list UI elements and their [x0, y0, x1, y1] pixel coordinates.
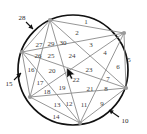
region-label-6: 6: [116, 64, 120, 71]
region-label-25: 25: [48, 53, 55, 60]
region-label-26: 26: [35, 53, 42, 60]
region-label-4: 4: [103, 50, 107, 57]
region-label-7: 7: [106, 76, 110, 83]
region-label-15: 15: [6, 81, 13, 88]
region-label-8: 8: [104, 86, 108, 93]
region-label-5: 5: [127, 57, 131, 64]
region-label-9: 9: [100, 101, 104, 108]
region-label-14: 14: [53, 114, 60, 121]
region-label-13: 13: [54, 102, 61, 109]
region-label-27: 27: [36, 42, 43, 49]
arrow-head-10: [109, 110, 114, 114]
region-label-16: 16: [28, 67, 35, 74]
vertex-left-upper: [20, 50, 24, 54]
region-label-18: 18: [44, 89, 51, 96]
region-label-3: 3: [89, 42, 93, 49]
region-label-20: 20: [49, 68, 56, 75]
region-label-28: 28: [19, 15, 26, 22]
region-label-17: 17: [37, 80, 44, 87]
region-label-10: 10: [122, 118, 129, 125]
diagram-canvas: 1015281234567891112131416171819202122232…: [0, 0, 147, 134]
region-label-30: 30: [60, 40, 67, 47]
region-label-12: 12: [66, 101, 73, 108]
region-label-29: 29: [48, 41, 55, 48]
vertex-top-left: [48, 18, 52, 22]
region-label-22: 22: [73, 77, 80, 84]
region-label-11: 11: [81, 102, 88, 109]
region-label-19: 19: [59, 85, 66, 92]
vertex-right: [124, 86, 128, 90]
vertex-left-lower: [28, 95, 32, 99]
region-label-1: 1: [84, 19, 88, 26]
region-label-23: 23: [86, 67, 93, 74]
region-label-2: 2: [75, 30, 79, 37]
region-label-21: 21: [87, 86, 94, 93]
vertex-bottom: [78, 121, 82, 125]
region-label-24: 24: [69, 53, 76, 60]
vertex-top-right: [122, 31, 126, 35]
